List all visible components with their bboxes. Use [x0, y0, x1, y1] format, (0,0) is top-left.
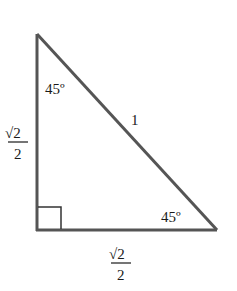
vertical-leg-numerator: √2	[5, 125, 21, 141]
hypotenuse-label: 1	[131, 112, 139, 128]
vertical-leg-label: √2 2	[5, 125, 28, 162]
right-angle-label: 45º	[161, 209, 181, 225]
hypotenuse	[37, 34, 217, 230]
vertical-leg-denominator: 2	[14, 146, 22, 162]
triangle-diagram: 45º 45º 1 √2 2 √2 2	[0, 0, 237, 291]
horizontal-leg-numerator: √2	[109, 246, 125, 262]
horizontal-leg-denominator: 2	[117, 267, 125, 283]
right-angle-marker	[38, 207, 61, 229]
top-angle-label: 45º	[45, 81, 65, 97]
horizontal-leg-label: √2 2	[109, 246, 131, 283]
